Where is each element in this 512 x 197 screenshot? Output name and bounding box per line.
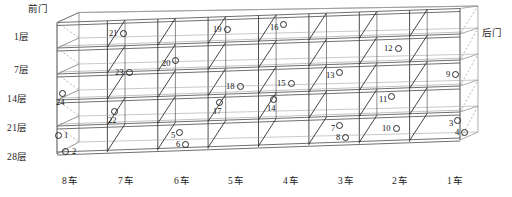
circle-icon [224,26,231,33]
marker-4[interactable]: 4 [455,127,468,136]
floor-label-28: 28层 [7,153,28,163]
circle-icon [182,141,189,148]
circle-icon [172,57,179,64]
marker-3[interactable]: 3 [449,118,461,127]
marker-12[interactable]: 12 [384,43,402,52]
circle-icon [62,148,69,155]
circle-icon [452,71,459,78]
circle-icon [126,69,133,76]
marker-14[interactable]: 14 [267,96,277,113]
circle-icon [176,129,183,136]
car-label-1: 1车 [447,177,464,187]
circle-icon [280,21,287,28]
circle-icon [342,134,349,141]
floor-label-7: 7层 [14,66,30,76]
marker-16[interactable]: 16 [270,22,287,31]
circle-icon [454,117,461,124]
circle-icon [461,129,468,136]
circle-icon [59,90,66,97]
marker-2[interactable]: 2 [62,146,78,155]
circle-icon [393,125,400,132]
marker-8[interactable]: 8 [336,132,349,141]
marker-5[interactable]: 5 [171,130,183,139]
marker-11[interactable]: 11 [379,94,395,103]
car-label-8: 8车 [62,177,79,187]
marker-10[interactable]: 10 [382,123,400,132]
marker-7[interactable]: 7 [331,123,343,132]
marker-21[interactable]: 21 [109,28,127,37]
circle-icon [388,93,395,100]
marker-13[interactable]: 13 [326,70,343,79]
car-label-5: 5车 [228,177,245,187]
marker-9[interactable]: 9 [446,69,459,78]
floor-label-21: 21层 [7,124,28,134]
marker-22[interactable]: 22 [108,108,118,125]
marker-18[interactable]: 18 [226,81,244,90]
car-label-6: 6车 [174,177,191,187]
marker-24[interactable]: 24 [56,90,66,107]
circle-icon [270,96,277,103]
marker-6[interactable]: 6 [176,139,189,148]
marker-20[interactable]: 20 [162,58,179,67]
back-plane-edges [460,6,478,140]
front-door-label: 前门 [28,5,49,15]
circle-icon [216,99,223,106]
car-label-3: 3车 [338,177,355,187]
marker-17[interactable]: 17 [213,99,223,116]
circle-icon [237,83,244,90]
back-door-label: 后门 [482,29,503,39]
circle-icon [55,132,62,139]
circle-icon [336,69,343,76]
floor-label-1: 1层 [14,33,30,43]
car-label-2: 2车 [392,177,409,187]
marker-15[interactable]: 15 [277,78,295,87]
marker-23[interactable]: 23 [115,67,133,76]
circle-icon [120,30,127,37]
floor-label-14: 14层 [7,95,28,105]
car-label-4: 4车 [283,177,300,187]
circle-icon [111,108,118,115]
isometric-rack-drawing [0,0,512,197]
diagram-canvas: 前门 后门 1层 7层 14层 21层 28层 8车 7车 6车 5车 4车 3… [0,0,512,197]
marker-19[interactable]: 19 [213,24,231,33]
circle-icon [395,45,402,52]
circle-icon [288,80,295,87]
marker-1[interactable]: 1 [55,130,70,139]
car-label-7: 7车 [118,177,135,187]
circle-icon [336,122,343,129]
back-end-dashed-diagonals [460,6,478,140]
